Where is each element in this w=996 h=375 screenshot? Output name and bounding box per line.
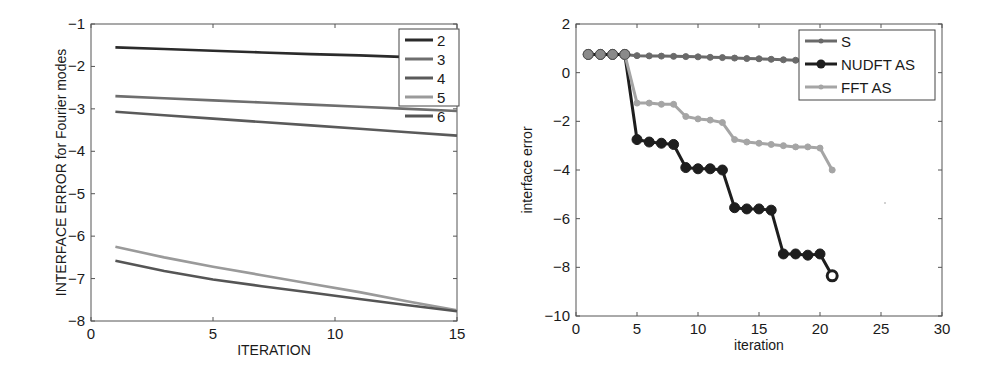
y-tick-label: −8 [553,258,570,275]
scan-artifact-dot [884,202,886,204]
data-point-marker [805,144,811,150]
data-point-marker [744,139,750,145]
data-point-marker [632,135,642,145]
y-tick-label: −5 [68,185,85,202]
data-point-marker [793,144,799,150]
data-point-marker [695,116,701,122]
y-tick-label: −3 [68,100,85,117]
data-point-marker [644,137,654,147]
y-tick-label: −6 [68,227,85,244]
data-point-marker [707,117,713,123]
x-tick-label: 15 [751,320,768,337]
y-tick-label: 2 [562,15,570,32]
data-point-marker [829,167,835,173]
data-point-marker [768,56,774,62]
data-point-marker [646,53,652,59]
overlap-marker [583,49,593,59]
data-point-marker [634,53,640,59]
right-chart-interface-error: 051015202530−10−8−6−4−202iterationinterf… [519,15,950,353]
data-point-marker [671,101,677,107]
overlap-marker [608,49,618,59]
data-point-marker [754,204,764,214]
data-point-marker [768,141,774,147]
legend-label: 3 [437,51,445,68]
y-tick-label: −7 [68,270,85,287]
y-tick-label: −2 [68,57,85,74]
overlap-marker [595,49,605,59]
legend-label: 6 [437,108,445,125]
x-tick-label: 5 [209,325,217,342]
data-point-marker [780,57,786,63]
y-axis-label: interface error [519,126,535,213]
data-point-marker [756,140,762,146]
data-point-marker [719,120,725,126]
overlap-marker [620,49,630,59]
y-tick-label: −4 [553,161,570,178]
data-point-marker [732,137,738,143]
x-axis-label: ITERATION [237,342,311,358]
data-point-marker [730,203,740,213]
legend: SNUDFT ASFFT AS [799,30,935,100]
data-point-marker [778,249,788,259]
legend-label: S [841,33,851,50]
y-tick-label: −4 [68,142,85,159]
y-tick-label: −6 [553,210,570,227]
data-point-marker [671,53,677,59]
x-tick-label: 25 [873,320,890,337]
data-point-marker [742,204,752,214]
figure-canvas: 051015−8−7−6−5−4−3−2−1ITERATIONINTERFACE… [0,0,996,375]
x-tick-label: 5 [633,320,641,337]
data-point-marker [705,164,715,174]
y-axis-label: INTERFACE ERROR for Fourier modes [53,49,69,296]
legend-marker [817,60,826,69]
legend-label: 4 [437,70,445,87]
data-point-marker [646,100,652,106]
x-tick-label: 10 [690,320,707,337]
legend-label: 5 [437,89,445,106]
x-axis-label: iteration [734,337,784,353]
legend-label: NUDFT AS [841,56,915,73]
data-point-marker [695,54,701,60]
y-tick-label: −2 [553,112,570,129]
data-point-marker [803,250,813,260]
x-tick-label: 30 [934,320,951,337]
y-tick-label: −1 [68,15,85,32]
data-point-marker [780,143,786,149]
x-tick-label: 0 [87,325,95,342]
data-point-marker [793,57,799,63]
legend-marker [819,39,824,44]
data-point-marker [707,54,713,60]
y-tick-label: 0 [562,64,570,81]
data-point-marker [683,54,689,60]
legend-label: FFT AS [841,79,892,96]
data-point-marker [815,249,825,259]
data-point-marker [827,271,837,281]
data-point-marker [817,145,823,151]
data-point-marker [656,138,666,148]
x-tick-label: 0 [572,320,580,337]
left-chart-fourier-modes: 051015−8−7−6−5−4−3−2−1ITERATIONINTERFACE… [53,15,465,358]
data-point-marker [719,55,725,61]
data-point-marker [658,53,664,59]
legend-marker [819,85,824,90]
data-point-marker [756,56,762,62]
data-point-marker [669,139,679,149]
data-point-marker [658,101,664,107]
x-tick-label: 15 [449,325,466,342]
data-point-marker [744,56,750,62]
y-tick-label: −10 [545,307,570,324]
data-point-marker [681,163,691,173]
data-point-marker [791,249,801,259]
data-point-marker [766,205,776,215]
x-tick-label: 10 [327,325,344,342]
data-point-marker [683,113,689,119]
data-point-marker [732,55,738,61]
data-point-marker [717,165,727,175]
legend-label: 2 [437,32,445,49]
x-tick-label: 20 [812,320,829,337]
y-tick-label: −8 [68,312,85,329]
data-point-marker [693,164,703,174]
data-point-marker [634,100,640,106]
